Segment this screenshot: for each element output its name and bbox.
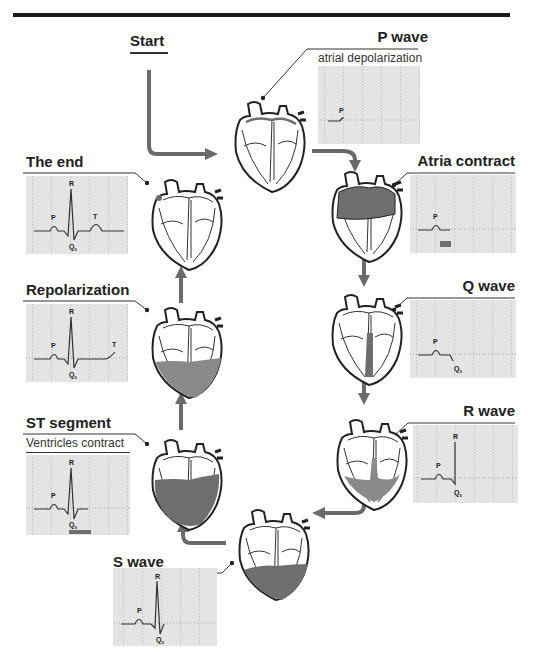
- ecg-panel-st-segment: R P Qs: [26, 455, 130, 535]
- stage-title-the-end: The end: [26, 153, 84, 170]
- svg-text:R: R: [69, 459, 74, 466]
- ecg-panel-q-wave: P Qs: [410, 300, 516, 378]
- ecg-panel-p-wave: P: [318, 66, 420, 144]
- svg-text:T: T: [112, 341, 117, 348]
- ecg-panel-repolarization: R P T Qs: [26, 304, 128, 382]
- ecg-panel-s-wave: R P Qs: [113, 568, 217, 646]
- svg-text:R: R: [69, 180, 74, 187]
- stage-title-st-segment: ST segment: [26, 414, 111, 431]
- ecg-panel-atria-contract: P: [410, 175, 516, 253]
- svg-text:P: P: [51, 342, 56, 349]
- st-subtitle-underline: [26, 452, 130, 453]
- svg-text:R: R: [453, 433, 458, 440]
- svg-text:T: T: [93, 213, 98, 220]
- ecg-panel-r-wave: R P Qs: [413, 425, 518, 503]
- svg-text:P: P: [433, 338, 438, 345]
- ecg-label-p: P: [339, 107, 344, 114]
- stage-subtitle-p-wave: atrial depolarization: [318, 51, 422, 65]
- stage-title-p-wave: P wave: [377, 28, 428, 45]
- stage-title-q-wave: Q wave: [462, 277, 515, 294]
- svg-text:R: R: [155, 573, 160, 580]
- svg-text:P: P: [51, 492, 56, 499]
- svg-text:P: P: [436, 462, 441, 469]
- stage-title-atria-contract: Atria contract: [417, 152, 515, 169]
- ecg-panel-the-end: R P T Qs: [26, 176, 128, 254]
- svg-text:R: R: [69, 308, 74, 315]
- stage-title-r-wave: R wave: [463, 402, 515, 419]
- stage-subtitle-st-segment: Ventricles contract: [26, 436, 124, 450]
- stage-title-repolarization: Repolarization: [26, 281, 129, 298]
- svg-text:P: P: [51, 214, 56, 221]
- svg-text:P: P: [137, 607, 142, 614]
- svg-text:P: P: [433, 213, 438, 220]
